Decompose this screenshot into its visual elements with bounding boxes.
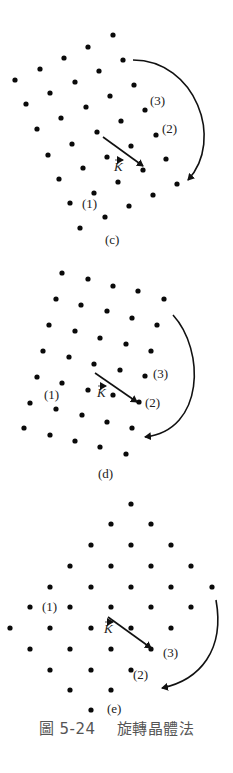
lattice-point: [85, 387, 90, 392]
lattice-point: [27, 400, 32, 405]
panel-c: K(3)(2)(1)(c): [12, 32, 204, 247]
k-vector-arrow-icon: [108, 617, 151, 648]
lattice-point: [27, 646, 32, 651]
lattice-point: [118, 118, 123, 123]
order-label: (2): [145, 395, 160, 410]
lattice-point: [123, 341, 128, 346]
k-vector-label: K: [96, 385, 107, 400]
panel-label: (e): [107, 701, 121, 716]
lattice-point: [131, 82, 136, 87]
lattice-point: [96, 68, 101, 73]
lattice-point: [128, 625, 133, 630]
lattice-point: [150, 192, 155, 197]
k-vector-label: K: [103, 621, 114, 636]
lattice-point: [79, 412, 84, 417]
lattice-point: [128, 542, 133, 547]
lattice-point: [148, 521, 153, 526]
lattice-point: [142, 373, 147, 378]
lattice-point: [45, 152, 50, 157]
order-label: (3): [150, 93, 165, 108]
k-vector-label: K: [113, 159, 124, 174]
lattice-point: [61, 55, 66, 60]
lattice-point: [168, 584, 173, 589]
lattice-point: [153, 132, 158, 137]
lattice-point: [47, 90, 52, 95]
lattice-point: [120, 57, 125, 62]
lattice-point: [53, 296, 58, 301]
lattice-point: [104, 308, 109, 313]
lattice-point: [115, 179, 120, 184]
lattice-point: [128, 143, 133, 148]
panel-label: (d): [98, 466, 113, 481]
lattice-point: [67, 687, 72, 692]
lattice-point: [107, 93, 112, 98]
lattice-point: [148, 348, 153, 353]
lattice-point: [148, 563, 153, 568]
k-vector-arrow-icon: [103, 137, 143, 166]
lattice-point: [88, 707, 93, 712]
lattice-point: [34, 374, 39, 379]
lattice-point: [85, 44, 90, 49]
lattice-point: [47, 625, 52, 630]
lattice-point: [66, 354, 71, 359]
lattice-point: [108, 687, 113, 692]
lattice-point: [47, 584, 52, 589]
lattice-point: [21, 425, 26, 430]
lattice-point: [88, 542, 93, 547]
lattice-point: [67, 200, 72, 205]
lattice-point: [188, 563, 193, 568]
lattice-point: [142, 107, 147, 112]
lattice-point: [56, 176, 61, 181]
lattice-point: [163, 156, 168, 161]
lattice-point: [104, 419, 109, 424]
lattice-point: [12, 77, 17, 82]
lattice-point: [209, 584, 214, 589]
order-label: (1): [82, 196, 97, 211]
lattice-point: [34, 126, 39, 131]
lattice-point: [123, 451, 128, 456]
order-label: (2): [133, 667, 148, 682]
lattice-point: [97, 335, 102, 340]
lattice-point: [27, 604, 32, 609]
lattice-point: [128, 584, 133, 589]
caption-title: 旋轉晶體法: [117, 720, 195, 738]
lattice-point: [7, 625, 12, 630]
lattice-point: [161, 296, 166, 301]
lattice-point: [102, 214, 107, 219]
order-label: (3): [153, 366, 168, 381]
lattice-point: [129, 425, 134, 430]
lattice-point: [88, 584, 93, 589]
lattice-point: [188, 604, 193, 609]
order-label: (3): [163, 645, 178, 660]
panel-d: K(3)(2)(1)(d): [21, 270, 194, 481]
lattice-point: [128, 501, 133, 506]
rotation-arrow-icon: [162, 600, 218, 688]
lattice-point: [40, 348, 45, 353]
lattice-point: [110, 32, 115, 37]
lattice-point: [108, 604, 113, 609]
lattice-point: [108, 646, 113, 651]
lattice-point: [47, 432, 52, 437]
lattice-point: [108, 563, 113, 568]
rotation-arrow-icon: [133, 60, 204, 180]
lattice-point: [53, 406, 58, 411]
order-label: (1): [42, 599, 57, 614]
figure-caption: 圖 5-24 旋轉晶體法: [0, 717, 233, 738]
order-label: (2): [162, 121, 177, 136]
lattice-point: [80, 165, 85, 170]
lattice-point: [69, 141, 74, 146]
lattice-point: [67, 646, 72, 651]
rotating-crystal-figure: K(3)(2)(1)(c)K(3)(2)(1)(d)K(1)(3)(2)(e): [0, 0, 233, 773]
lattice-point: [117, 367, 122, 372]
lattice-point: [148, 604, 153, 609]
lattice-point: [168, 625, 173, 630]
lattice-point: [78, 302, 83, 307]
lattice-point: [129, 315, 134, 320]
lattice-point: [136, 399, 141, 404]
lattice-point: [97, 444, 102, 449]
lattice-point: [77, 225, 82, 230]
lattice-point: [110, 283, 115, 288]
panel-e: K(1)(3)(2)(e): [7, 501, 217, 716]
lattice-point: [59, 380, 64, 385]
lattice-point: [58, 115, 63, 120]
